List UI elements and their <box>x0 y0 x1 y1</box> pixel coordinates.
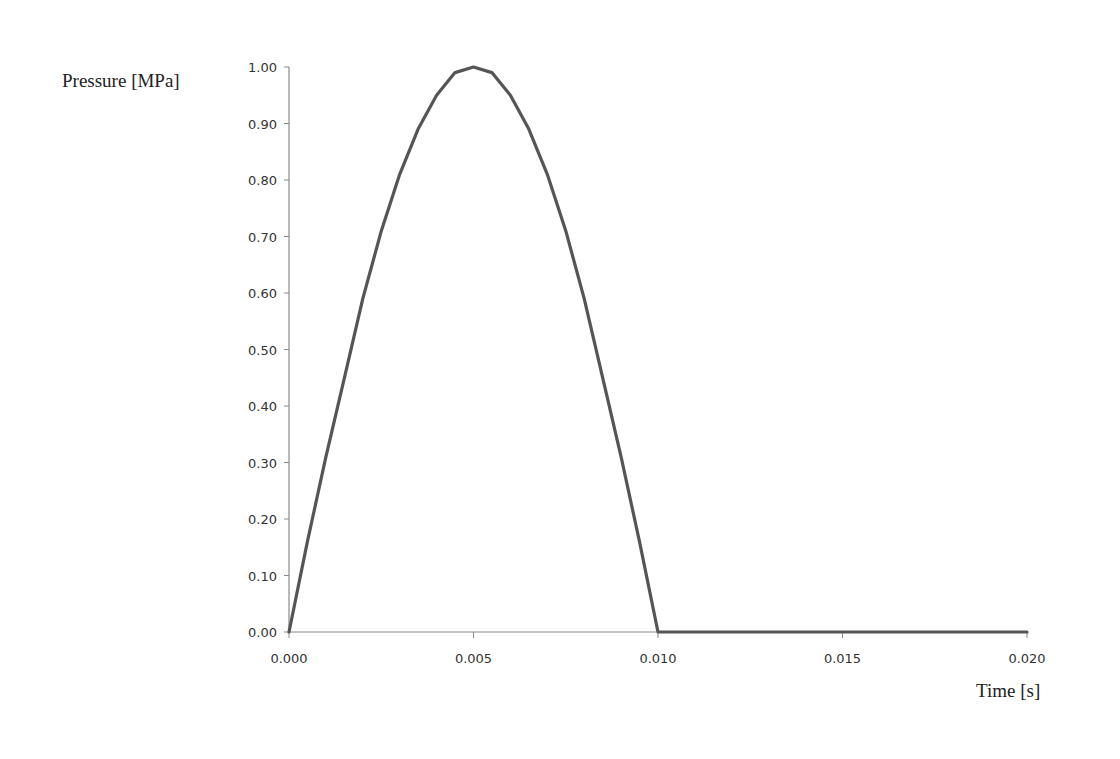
y-tick-label: 1.00 <box>248 60 277 75</box>
x-tick-label: 0.020 <box>1008 651 1045 666</box>
y-tick-label: 0.30 <box>248 456 277 471</box>
y-tick-label: 0.00 <box>248 625 277 640</box>
x-tick-label: 0.000 <box>270 651 307 666</box>
y-tick-label: 0.70 <box>248 230 277 245</box>
y-tick-label: 0.10 <box>248 569 277 584</box>
y-axis-ticks: 0.000.100.200.300.400.500.600.700.800.90… <box>248 60 289 640</box>
x-tick-label: 0.015 <box>824 651 861 666</box>
x-axis-ticks: 0.0000.0050.0100.0150.020 <box>270 632 1045 666</box>
y-tick-label: 0.20 <box>248 512 277 527</box>
y-axis-label: Pressure [MPa] <box>62 70 180 92</box>
y-tick-label: 0.90 <box>248 117 277 132</box>
x-tick-label: 0.010 <box>639 651 676 666</box>
plot-area: 0.000.100.200.300.400.500.600.700.800.90… <box>0 0 1120 759</box>
pressure-line <box>289 67 1027 632</box>
y-tick-label: 0.50 <box>248 343 277 358</box>
y-tick-label: 0.40 <box>248 399 277 414</box>
x-tick-label: 0.005 <box>455 651 492 666</box>
x-axis-label: Time [s] <box>976 680 1040 702</box>
pressure-time-chart: 0.000.100.200.300.400.500.600.700.800.90… <box>0 0 1120 759</box>
axes <box>289 67 1027 632</box>
y-tick-label: 0.80 <box>248 173 277 188</box>
y-tick-label: 0.60 <box>248 286 277 301</box>
data-series <box>289 67 1027 632</box>
